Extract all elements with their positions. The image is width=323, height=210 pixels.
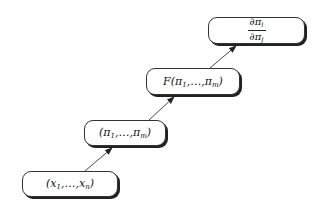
node-function-f: F(π1,…,πm) xyxy=(146,68,240,95)
numerator: ∂πi xyxy=(248,17,266,31)
node-inputs-label: (x1,…,xn) xyxy=(46,177,94,191)
edge-n3-n4 xyxy=(210,46,236,68)
node-partial-derivative: ∂πi ∂πj xyxy=(208,17,305,44)
denominator: ∂πj xyxy=(250,31,264,44)
fraction: ∂πi ∂πj xyxy=(248,17,266,44)
node-pi-tuple-label: (π1,…,πm) xyxy=(99,126,151,140)
node-inputs: (x1,…,xn) xyxy=(22,171,118,197)
edge-n2-n3 xyxy=(149,97,174,120)
node-pi-tuple: (π1,…,πm) xyxy=(84,120,166,146)
edge-n1-n2 xyxy=(85,148,112,171)
node-function-f-label: F(π1,…,πm) xyxy=(163,75,223,89)
